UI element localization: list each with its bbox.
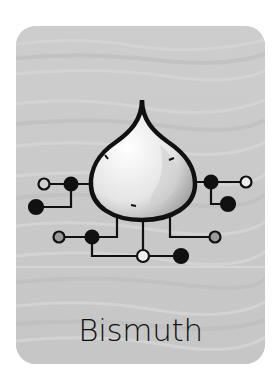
node-hollow xyxy=(39,179,50,190)
node-hollow xyxy=(137,250,149,262)
node-gray xyxy=(210,232,221,243)
node-filled xyxy=(205,176,218,189)
node-gray xyxy=(54,232,65,243)
node-filled xyxy=(174,249,188,263)
node-filled xyxy=(221,197,235,211)
node-filled xyxy=(65,178,78,191)
element-name: Bismuth xyxy=(16,312,265,348)
drop-shape xyxy=(91,100,195,220)
node-filled xyxy=(29,200,43,214)
element-card[interactable]: Bismuth xyxy=(16,26,265,364)
node-hollow xyxy=(241,177,252,188)
node-filled xyxy=(86,231,99,244)
